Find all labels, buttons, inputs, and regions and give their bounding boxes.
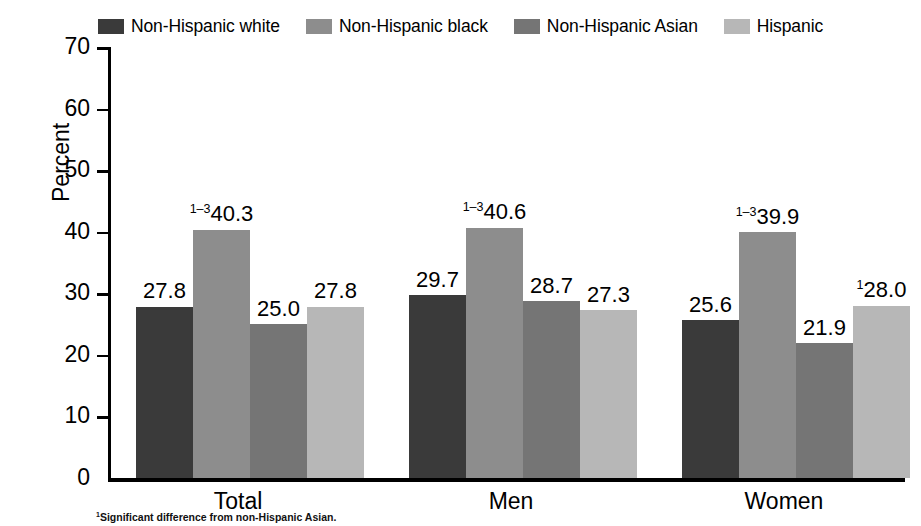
bar-value-superscript: 1–3 bbox=[190, 202, 211, 216]
y-tick-label: 40 bbox=[64, 220, 90, 243]
bar-men-non-hispanic-white[interactable] bbox=[409, 295, 466, 478]
legend-label: Non-Hispanic white bbox=[131, 18, 280, 35]
bar-total-non-hispanic-white[interactable] bbox=[136, 307, 193, 478]
legend-item-non-hispanic-black: Non-Hispanic black bbox=[306, 18, 488, 35]
bar-value-label: 27.8 bbox=[291, 280, 380, 302]
legend-item-non-hispanic-white: Non-Hispanic white bbox=[98, 18, 280, 35]
bar-value-label: 27.3 bbox=[564, 284, 653, 306]
bar-men-non-hispanic-asian[interactable] bbox=[523, 301, 580, 478]
bar-total-non-hispanic-asian[interactable] bbox=[250, 324, 307, 478]
y-tick-label: 0 bbox=[77, 466, 90, 489]
y-tick-label: 70 bbox=[64, 35, 90, 58]
x-axis-line bbox=[108, 478, 905, 482]
bar-value-superscript: 1–3 bbox=[736, 205, 757, 219]
footnote-text: Significant difference from non-Hispanic… bbox=[100, 511, 336, 523]
legend-swatch-icon bbox=[514, 19, 540, 34]
y-tick-label: 20 bbox=[64, 343, 90, 366]
y-tick-label: 30 bbox=[64, 281, 90, 304]
bar-chart: Non-Hispanic white Non-Hispanic black No… bbox=[0, 0, 921, 526]
legend-item-hispanic: Hispanic bbox=[724, 18, 823, 35]
bar-total-non-hispanic-black[interactable] bbox=[193, 230, 250, 478]
chart-footnote: 1Significant difference from non-Hispani… bbox=[96, 512, 336, 523]
legend-swatch-icon bbox=[306, 19, 332, 34]
x-tick-label-total: Total bbox=[138, 490, 338, 513]
y-tick-label: 10 bbox=[64, 404, 90, 427]
legend-swatch-icon bbox=[98, 19, 124, 34]
bar-value-label: 1–339.9 bbox=[716, 206, 819, 228]
bar-value-superscript: 1 bbox=[857, 278, 864, 292]
legend-label: Non-Hispanic black bbox=[339, 18, 488, 35]
bar-women-non-hispanic-black[interactable] bbox=[739, 232, 796, 478]
bar-women-non-hispanic-white[interactable] bbox=[682, 320, 739, 478]
y-tick-label: 60 bbox=[64, 97, 90, 120]
x-tick-label-men: Men bbox=[411, 490, 611, 513]
bar-value-label: 1–340.6 bbox=[443, 201, 546, 223]
chart-legend: Non-Hispanic white Non-Hispanic black No… bbox=[0, 18, 921, 35]
legend-label: Non-Hispanic Asian bbox=[547, 18, 698, 35]
plot-area: Percent 70 60 50 40 30 20 10 bbox=[108, 47, 905, 478]
bar-men-hispanic[interactable] bbox=[580, 310, 637, 478]
bar-women-hispanic[interactable] bbox=[853, 306, 910, 478]
bar-total-hispanic[interactable] bbox=[307, 307, 364, 478]
bar-value-label: 128.0 bbox=[833, 279, 921, 301]
bar-value-superscript: 1–3 bbox=[463, 200, 484, 214]
x-tick-label-women: Women bbox=[684, 490, 884, 513]
legend-swatch-icon bbox=[724, 19, 750, 34]
bar-women-non-hispanic-asian[interactable] bbox=[796, 343, 853, 478]
bar-men-non-hispanic-black[interactable] bbox=[466, 228, 523, 478]
bar-value-label: 1–340.3 bbox=[170, 203, 273, 225]
legend-item-non-hispanic-asian: Non-Hispanic Asian bbox=[514, 18, 698, 35]
legend-label: Hispanic bbox=[757, 18, 823, 35]
y-tick-label: 50 bbox=[64, 158, 90, 181]
